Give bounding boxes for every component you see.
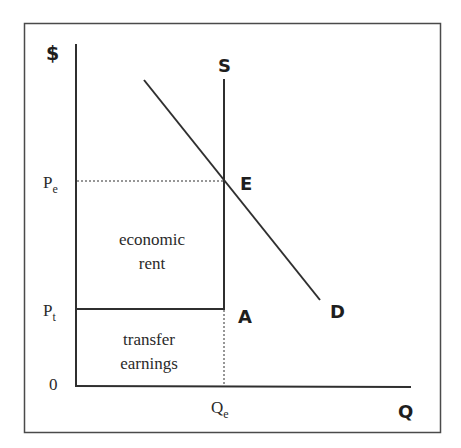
demand-label: D [330,301,345,322]
pt-label: Pt [43,301,56,324]
y-axis-label: $ [46,42,59,64]
qe-label: Qe [211,398,229,421]
diagram-frame [25,24,441,433]
transfer-earnings-label-line1: transfer [123,330,175,349]
x-axis [75,386,411,387]
economic-rent-diagram: $ Q 0 Pe Pt Qe S D E A economic rent tra… [0,0,461,448]
economic-rent-label-line2: rent [139,254,166,273]
economic-rent-label-line1: economic [119,230,186,249]
point-e-label: E [240,173,252,194]
transfer-earnings-label-line2: earnings [120,354,178,373]
x-axis-label: Q [398,401,413,422]
pe-label: Pe [43,173,58,196]
origin-label: 0 [49,375,58,394]
point-a-label: A [238,306,252,327]
demand-curve [144,80,320,300]
supply-label: S [218,55,231,76]
